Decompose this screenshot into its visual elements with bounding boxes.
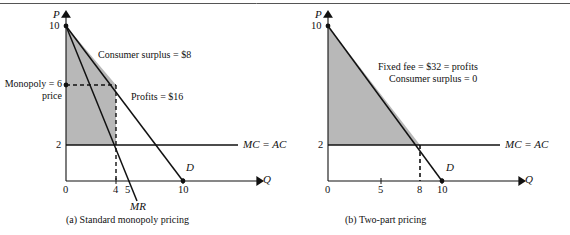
- panel-b-ytick-10: 10: [311, 21, 322, 32]
- panel-a-x-axis-label: Q: [263, 174, 271, 185]
- panel-a-monopoly-price-line1: Monopoly = 6: [5, 78, 62, 89]
- panel-a-monopoly-price-label: Monopoly = 6 price: [0, 78, 62, 101]
- panel-a-monopoly-price-line2: price: [42, 90, 62, 101]
- panel-a-mr-label: MR: [130, 201, 146, 212]
- panel-b-xtick-10: 10: [437, 185, 448, 196]
- panel-a-demand-intercept-dot: [181, 179, 186, 184]
- panel-a-profits-label: Profits = $16: [131, 92, 183, 102]
- panel-a-y-axis-label: P: [53, 9, 60, 20]
- panel-a-xtick-0: 0: [63, 185, 68, 196]
- panel-a-intercept-dot: [64, 24, 69, 29]
- panel-a-consumer-surplus-label: Consumer surplus = $8: [98, 50, 191, 60]
- panel-b-ytick-2: 2: [318, 140, 323, 151]
- panel-b-x-axis-label: Q: [525, 174, 533, 185]
- panel-b-xtick-5: 5: [378, 185, 383, 196]
- panel-a-caption: (a) Standard monopoly pricing: [66, 215, 189, 225]
- panel-b-demand-label: D: [446, 162, 454, 173]
- panel-a-ytick-2: 2: [56, 140, 61, 151]
- panel-b-demand-intercept-dot: [440, 179, 445, 184]
- panel-b-fixed-fee-label: Fixed fee = $32 = profits: [378, 62, 478, 72]
- figure-svg: [0, 0, 570, 235]
- panel-b-xtick-0: 0: [325, 185, 330, 196]
- panel-b-intercept-dot: [326, 24, 331, 29]
- panel-a-mc-ac-label: MC = AC: [243, 139, 286, 150]
- panel-b-graph: [326, 16, 520, 184]
- panel-a-xtick-10: 10: [178, 185, 189, 196]
- panel-a-xtick-4: 4: [113, 185, 118, 196]
- panel-b-mc-ac-label: MC = AC: [505, 139, 548, 150]
- panel-a-graph: [64, 16, 258, 201]
- panel-a-monopoly-price-dot: [64, 83, 69, 88]
- panel-a-xtick-5: 5: [125, 185, 130, 196]
- panel-a-demand-label: D: [186, 162, 194, 173]
- panel-b-caption: (b) Two-part pricing: [345, 215, 426, 225]
- panel-b-xtick-8: 8: [417, 185, 422, 196]
- panel-b-consumer-surplus-label: Consumer surplus = 0: [389, 74, 477, 84]
- figure-container: P 10 2 Monopoly = 6 price Consumer surpl…: [0, 0, 570, 235]
- panel-b-y-axis-label: P: [315, 9, 322, 20]
- panel-a-ytick-10: 10: [49, 21, 60, 32]
